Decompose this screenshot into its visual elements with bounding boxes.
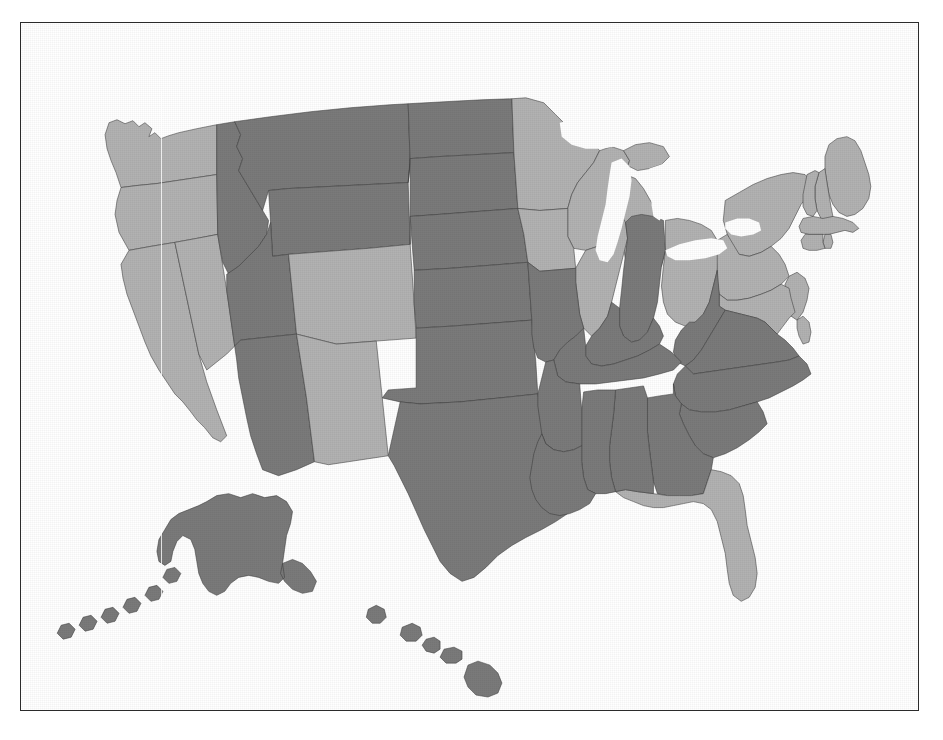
united-states-choropleth-map[interactable]: Washington Oregon California Nevada Idah… [21,23,918,710]
state-MA[interactable]: Massachusetts [799,216,859,234]
state-CT[interactable]: Connecticut [801,234,825,250]
state-AL[interactable]: Alabama [610,386,654,494]
state-HI[interactable]: Hawaii [366,605,502,697]
state-DE[interactable]: Delaware [797,316,811,344]
state-NE[interactable]: Nebraska [410,208,528,270]
states-layer: Washington Oregon California Nevada Idah… [57,98,871,697]
state-WY[interactable]: Wyoming [269,183,411,257]
map-frame: Washington Oregon California Nevada Idah… [20,22,919,711]
map-stage: Washington Oregon California Nevada Idah… [21,23,918,710]
hawaii-inset: Hawaii [366,605,502,697]
state-KS[interactable]: Kansas [414,262,532,328]
state-CO[interactable]: Colorado [289,244,417,344]
state-NY[interactable]: New York [723,173,813,257]
alaska-inset: Alaska [57,494,316,640]
state-AK[interactable]: Alaska [57,494,316,640]
lake-huron [649,159,681,221]
state-ME[interactable]: Maine [825,137,871,217]
